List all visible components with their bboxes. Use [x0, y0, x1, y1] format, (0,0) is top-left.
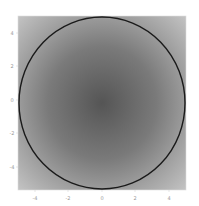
x-tick-label: 4 [167, 195, 170, 201]
x-tick-label: -4 [33, 195, 38, 201]
x-tick-label: 2 [133, 195, 136, 201]
x-tick-label: -2 [66, 195, 71, 201]
y-axis: 4 2 0 -2 -4 [10, 30, 19, 170]
y-tick-label: 2 [10, 63, 13, 69]
y-tick-label: 4 [10, 30, 13, 36]
x-tick-label: 0 [100, 195, 103, 201]
y-tick-label: -2 [10, 130, 15, 136]
y-tick-label: -4 [10, 164, 15, 170]
y-tick-label: 0 [10, 97, 13, 103]
x-axis: -4 -2 0 2 4 [33, 190, 171, 201]
chart: -4 -2 0 2 4 4 2 0 -2 -4 [0, 0, 199, 206]
